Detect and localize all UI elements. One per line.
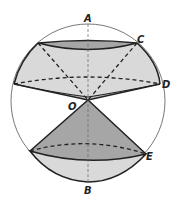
sphere-diagram: A C D O E B [0, 0, 176, 203]
label-d: D [162, 79, 170, 90]
label-c: C [137, 34, 145, 45]
label-b: B [84, 185, 92, 196]
label-a: A [83, 13, 92, 24]
label-o: O [68, 101, 77, 112]
label-e: E [146, 151, 153, 162]
